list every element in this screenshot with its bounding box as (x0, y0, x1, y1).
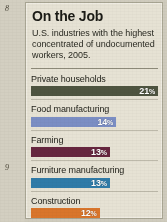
bar-row: Furniture manufacturing13% (31, 165, 158, 192)
row-divider (31, 160, 158, 161)
bar-fill: 13% (31, 178, 110, 188)
bar-row: Construction12% (31, 196, 158, 219)
bar-fill: 13% (31, 147, 110, 157)
row-divider (31, 99, 158, 100)
bar-fill: 21% (31, 86, 158, 96)
bar-track: 13% (31, 178, 158, 188)
infographic-card: On the Job U.S. industries with the high… (25, 2, 163, 219)
bar-track: 13% (31, 147, 158, 157)
bar-value-number: 21 (139, 86, 149, 96)
row-divider (31, 130, 158, 131)
bar-value-number: 12 (81, 208, 91, 218)
bar-value-unit: % (101, 149, 107, 156)
bar-row: Food manufacturing14% (31, 104, 158, 131)
bar-row: Farming13% (31, 135, 158, 162)
bar-value-unit: % (101, 180, 107, 187)
bar-fill: 14% (31, 117, 116, 127)
scanned-page: 8 9 On the Job U.S. industries with the … (0, 0, 167, 222)
bar-value-label: 13% (91, 147, 107, 157)
bar-fill: 12% (31, 208, 100, 218)
page-margin: 8 9 (0, 0, 25, 222)
bar-track: 21% (31, 86, 158, 96)
bar-track: 14% (31, 117, 158, 127)
bar-label: Private households (31, 74, 158, 85)
bar-value-number: 13 (91, 147, 101, 157)
chart-subtitle: U.S. industries with the highest concent… (32, 28, 157, 62)
bar-label: Food manufacturing (31, 104, 158, 115)
page-title: On the Job (32, 9, 159, 24)
bar-chart: Private households21%Food manufacturing1… (31, 74, 158, 219)
bar-value-unit: % (149, 88, 155, 95)
bar-row: Private households21% (31, 74, 158, 101)
bar-label: Farming (31, 135, 158, 146)
page-number-marker-9: 9 (5, 163, 9, 172)
bar-label: Furniture manufacturing (31, 165, 158, 176)
page-number-marker-8: 8 (5, 4, 9, 13)
bar-value-label: 13% (91, 178, 107, 188)
bar-value-label: 21% (139, 86, 155, 96)
bar-track: 12% (31, 208, 158, 218)
bar-value-number: 13 (91, 178, 101, 188)
bar-value-label: 14% (97, 117, 113, 127)
row-divider (31, 191, 158, 192)
bar-label: Construction (31, 196, 158, 207)
bar-value-unit: % (107, 119, 113, 126)
header-divider (31, 68, 158, 69)
bar-value-unit: % (91, 210, 97, 217)
card-content: On the Job U.S. industries with the high… (29, 6, 159, 215)
bar-value-label: 12% (81, 208, 97, 218)
bar-value-number: 14 (97, 117, 107, 127)
